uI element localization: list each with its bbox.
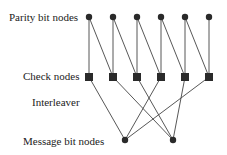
check-message-edge [125, 77, 161, 140]
check-node [205, 73, 213, 81]
parity-check-edge [113, 17, 137, 77]
parity-check-edge [185, 17, 209, 77]
parity-bit-node [182, 14, 188, 20]
check-node [181, 73, 189, 81]
check-message-edge [173, 77, 185, 140]
check-node [109, 73, 117, 81]
message-bit-node [170, 137, 176, 143]
parity-bit-node [158, 14, 164, 20]
parity-check-edge [137, 17, 161, 77]
parity-check-edge [89, 17, 113, 77]
parity-bit-node [206, 14, 212, 20]
check-message-edge [89, 77, 125, 140]
check-message-edge [125, 77, 209, 140]
parity-bit-node [86, 14, 92, 20]
factor-graph [0, 0, 227, 155]
message-bit-node [122, 137, 128, 143]
check-node [157, 73, 165, 81]
check-node [85, 73, 93, 81]
parity-bit-node [110, 14, 116, 20]
check-node [133, 73, 141, 81]
parity-check-edge [161, 17, 185, 77]
parity-bit-node [134, 14, 140, 20]
